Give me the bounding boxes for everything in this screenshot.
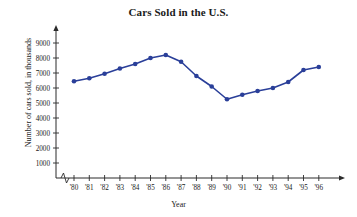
data-series [72,53,321,102]
x-tick-label: '91 [238,184,247,192]
data-point [271,86,276,91]
data-point [194,74,199,79]
data-point [209,84,214,89]
y-tick-label: 2000 [36,145,51,153]
y-tick-label: 8000 [36,55,51,63]
x-tick-label: '96 [315,184,324,192]
x-tick-label: '81 [85,184,94,192]
x-axis: '80'81'82'83'84'85'86'87'88'89'90'91'92'… [56,173,345,192]
x-tick-label: '95 [299,184,308,192]
x-tick-label: '83 [116,184,125,192]
y-tick-label: 6000 [36,85,51,93]
x-tick-label: '86 [162,184,171,192]
y-tick-label: 3000 [36,130,51,138]
data-point [133,62,138,67]
data-point [317,65,322,70]
y-tick-label: 7000 [36,70,51,78]
plot-area: 100020003000400050006000700080009000 '80… [0,0,357,217]
data-point [87,76,92,81]
data-point [118,66,123,71]
chart-container: Cars Sold in the U.S. Number of cars sol… [0,0,357,217]
data-point [301,68,306,73]
data-point [240,92,245,97]
x-tick-label: '94 [284,184,293,192]
y-axis: 100020003000400050006000700080009000 [36,25,59,178]
x-tick-label: '92 [253,184,262,192]
y-tick-label: 4000 [36,115,51,123]
data-point [164,53,169,58]
x-tick-label: '90 [223,184,232,192]
x-tick-label: '93 [269,184,278,192]
y-tick-label: 9000 [36,40,51,48]
x-tick-label: '82 [100,184,109,192]
x-tick-label: '85 [146,184,155,192]
data-point [255,89,260,94]
data-point [225,97,230,102]
data-point [179,59,184,64]
x-tick-label: '88 [192,184,201,192]
data-point [148,56,153,61]
x-tick-label: '87 [177,184,186,192]
data-point [72,79,77,84]
x-tick-label: '84 [131,184,140,192]
data-point [286,80,291,85]
x-tick-label: '89 [207,184,216,192]
y-tick-label: 5000 [36,100,51,108]
data-point [102,71,107,76]
x-tick-label: '80 [70,184,79,192]
y-tick-label: 1000 [36,160,51,168]
